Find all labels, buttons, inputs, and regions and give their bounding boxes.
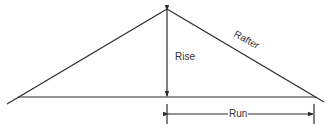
- roof-triangle-drawing: [0, 0, 333, 137]
- roof-rise-run-diagram: Rise Rafter Run: [0, 0, 333, 137]
- left-rafter-line: [7, 9, 167, 104]
- run-label: Run: [228, 109, 248, 119]
- rise-label: Rise: [175, 52, 195, 62]
